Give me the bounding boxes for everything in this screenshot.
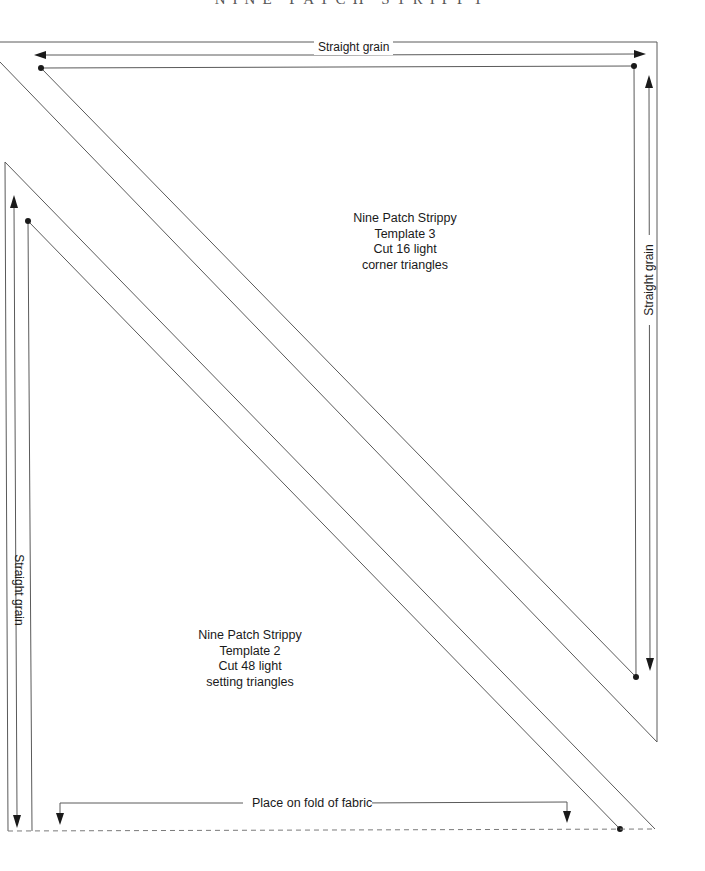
- right-grain-arrow: [645, 75, 654, 671]
- template-3-info: Nine Patch Strippy Template 3 Cut 16 lig…: [340, 211, 470, 273]
- template-3-outer-outline: [0, 42, 657, 742]
- template-2-info: Nine Patch Strippy Template 2 Cut 48 lig…: [185, 628, 315, 690]
- template-2-title: Nine Patch Strippy: [185, 628, 315, 644]
- template-2-piece-type: setting triangles: [185, 675, 315, 691]
- template-2-number: Template 2: [185, 644, 315, 660]
- template-3-piece-type: corner triangles: [340, 258, 470, 274]
- template-3-corner-dot-bottom: [633, 674, 639, 680]
- template-3-corner-dot-left: [38, 65, 44, 71]
- fold-line: [8, 829, 655, 831]
- fold-bracket-arrow-right: [563, 811, 571, 823]
- template-2-corner-dot-top: [25, 218, 31, 224]
- fold-label: Place on fold of fabric: [252, 796, 372, 811]
- template-2-seam-line: [28, 221, 620, 831]
- right-grain-label: Straight grain: [642, 235, 656, 325]
- template-2-cut-count: Cut 48 light: [185, 659, 315, 675]
- left-grain-label: Straight grain: [12, 545, 26, 635]
- template-3-seam-line: [41, 66, 636, 677]
- template-2-outer-outline: [5, 162, 655, 831]
- template-drawing: [0, 0, 705, 871]
- template-3-title: Nine Patch Strippy: [340, 211, 470, 227]
- template-3-corner-dot-right: [631, 63, 637, 69]
- left-grain-arrow: [10, 195, 21, 828]
- template-3-cut-count: Cut 16 light: [340, 242, 470, 258]
- fold-bracket-arrow-left: [56, 813, 64, 825]
- template-3-number: Template 3: [340, 227, 470, 243]
- top-grain-label: Straight grain: [314, 40, 393, 55]
